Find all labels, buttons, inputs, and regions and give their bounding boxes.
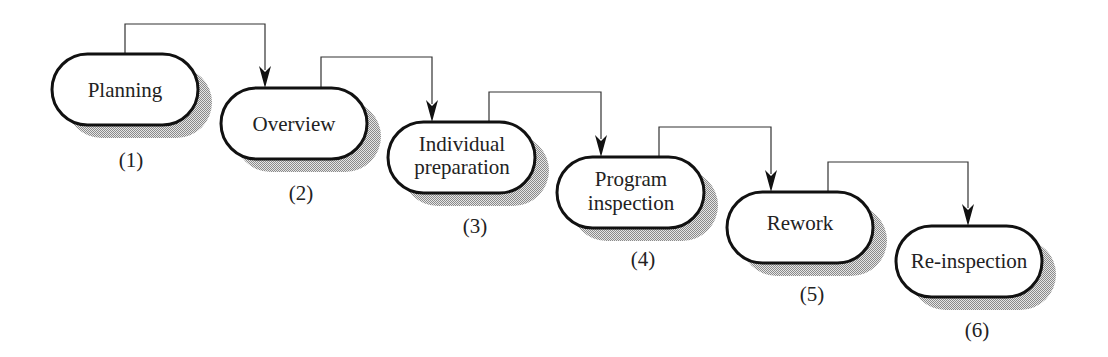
step-number: (5) xyxy=(800,282,825,306)
step-number: (2) xyxy=(289,181,314,205)
step-label: Rework xyxy=(767,211,834,235)
step-label-line-2: inspection xyxy=(588,191,675,215)
step-number: (3) xyxy=(463,214,488,238)
step-number: (6) xyxy=(965,318,990,342)
step-planning: Planning (1) xyxy=(52,54,212,172)
step-label-line-1: Program xyxy=(595,167,667,191)
step-individual-preparation: Individual preparation (3) xyxy=(388,122,549,238)
step-label: Re-inspection xyxy=(911,249,1028,273)
step-number: (4) xyxy=(631,247,656,271)
step-label-line-2: preparation xyxy=(414,155,510,179)
step-program-inspection: Program inspection (4) xyxy=(557,157,718,271)
step-label: Planning xyxy=(88,78,163,102)
step-rework: Rework (5) xyxy=(727,192,887,306)
step-label: Overview xyxy=(253,112,337,136)
step-label-line-1: Individual xyxy=(419,132,505,156)
inspection-process-diagram: Planning (1) Overview (2) Individual pre… xyxy=(0,0,1108,357)
step-re-inspection: Re-inspection (6) xyxy=(896,226,1056,342)
step-number: (1) xyxy=(119,148,144,172)
step-overview: Overview (2) xyxy=(221,88,381,205)
